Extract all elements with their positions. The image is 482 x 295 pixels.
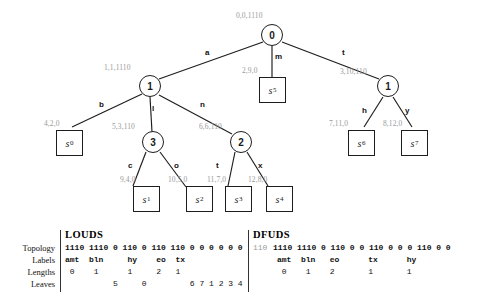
- edge-label-t-root: t: [342, 48, 345, 57]
- edge-label-t-n2: t: [216, 161, 219, 170]
- tree-node-root-label: 0: [269, 30, 275, 41]
- tree-leaf-s3-sub: 3: [239, 195, 243, 203]
- tree-node-n1-label: 1: [147, 81, 153, 92]
- divider-left: [60, 230, 61, 292]
- edge-label-x: x: [258, 161, 262, 170]
- tree-leaf-s1-annotation: 9,4,0: [120, 175, 136, 184]
- edge-n2-s3: [228, 152, 235, 186]
- tree-leaf-s6-label: s: [358, 138, 362, 149]
- tree-leaf-s7-annotation: 8,12,0: [383, 119, 402, 128]
- tree-leaf-s7[interactable]: s7: [401, 130, 428, 156]
- tree-leaf-s4-label: s: [276, 194, 280, 205]
- tree-leaf-s3[interactable]: s3: [225, 186, 252, 212]
- tree-node-n1[interactable]: 1: [139, 75, 161, 97]
- tree-node-n1-annotation: 1,1,1110: [104, 63, 131, 72]
- tree-leaf-s6[interactable]: s6: [348, 130, 375, 156]
- dfuds-heading: DFUDS: [253, 229, 290, 240]
- tree-leaf-s3-annotation: 11,7,0: [207, 175, 226, 184]
- dfuds-topology-prefix: 110: [253, 243, 267, 252]
- tree-leaf-s5-sub: 5: [273, 86, 277, 94]
- row-label-labels: Labels: [0, 255, 55, 265]
- louds-lengths: 0 1 1 2 1: [65, 267, 180, 276]
- row-label-leaves: Leaves: [0, 279, 55, 289]
- edge-label-m: m: [275, 52, 282, 61]
- tree-leaf-s5-annotation: 2,9,0: [242, 66, 258, 75]
- tree-leaf-s2[interactable]: s2: [186, 186, 213, 212]
- tree-leaf-s2-label: s: [196, 194, 200, 205]
- dfuds-lengths: 0 1 2 1 1: [253, 267, 411, 276]
- edge-label-c: c: [128, 161, 132, 170]
- tree-node-nr1-annotation: 3,10,110: [340, 67, 367, 76]
- tree-node-n2[interactable]: 2: [230, 131, 252, 153]
- tree-node-n3-annotation: 5,3,110: [112, 122, 135, 131]
- tree-leaf-s0-sub: 0: [70, 139, 74, 147]
- encoding-table: Topology Labels Lengths Leaves LOUDS 111…: [0, 230, 482, 295]
- edge-label-a: a: [205, 48, 209, 57]
- tree-leaf-s3-label: s: [235, 194, 239, 205]
- tree-leaf-s1-label: s: [143, 194, 147, 205]
- louds-topology: 1110 1110 0 110 0 110 110 0 0 0 0 0 0: [65, 243, 243, 252]
- louds-labels: amt bln hy eo tx: [65, 255, 185, 264]
- louds-leaves: 5 0 6 7 1 2 3 4: [65, 279, 243, 288]
- divider-middle: [248, 230, 249, 292]
- tree-leaf-s7-sub: 7: [415, 139, 419, 147]
- tree-leaf-s4[interactable]: s4: [266, 186, 293, 212]
- tree-leaf-s0-label: s: [66, 138, 70, 149]
- tree-leaf-s1-sub: 1: [147, 195, 151, 203]
- edge-label-o: o: [174, 161, 179, 170]
- tree-node-nr1-label: 1: [385, 81, 391, 92]
- edge-label-y: y: [405, 106, 409, 115]
- tree-leaf-s2-annotation: 10,5,0: [168, 175, 187, 184]
- tree-node-n2-annotation: 6,6,110: [199, 122, 222, 131]
- tree-leaf-s0-annotation: 4,2,0: [44, 119, 60, 128]
- tree-leaf-s4-annotation: 12,8,0: [248, 175, 267, 184]
- figure-canvas: 0 0,0,1110 1 1,1,1110 3 5,3,110 2 6,6,11…: [0, 0, 482, 295]
- tree-node-n3-label: 3: [150, 137, 156, 148]
- row-label-lengths: Lengths: [0, 267, 55, 277]
- tree-leaf-s4-sub: 4: [280, 195, 284, 203]
- tree-leaf-s6-annotation: 7,11,0: [329, 119, 348, 128]
- tree-leaf-s1[interactable]: s1: [133, 186, 160, 212]
- edge-label-l: l: [152, 104, 154, 113]
- edge-n1-n3: [150, 97, 152, 132]
- tree-node-n2-label: 2: [238, 137, 244, 148]
- louds-heading: LOUDS: [65, 229, 103, 240]
- tree-leaf-s5-label: s: [269, 85, 273, 96]
- tree-leaf-s0[interactable]: s0: [56, 130, 83, 156]
- row-label-topology: Topology: [0, 243, 55, 253]
- tree-leaf-s5[interactable]: s5: [259, 77, 286, 103]
- tree-leaf-s7-label: s: [411, 138, 415, 149]
- tree-node-n3[interactable]: 3: [142, 131, 164, 153]
- dfuds-topology: 1110 1110 0 110 0 0 110 0 0 0 110 0 0: [273, 243, 451, 252]
- tree-leaf-s2-sub: 2: [200, 195, 204, 203]
- tree-node-root[interactable]: 0: [261, 24, 283, 46]
- tree-node-root-annotation: 0,0,1110: [236, 11, 263, 20]
- tree-leaf-s6-sub: 6: [362, 139, 366, 147]
- tree-node-nr1[interactable]: 1: [377, 75, 399, 97]
- edge-label-b: b: [99, 100, 104, 109]
- edge-label-n: n: [200, 100, 205, 109]
- dfuds-labels: amt bln eo tx hy: [253, 255, 416, 264]
- edge-label-h: h: [362, 106, 367, 115]
